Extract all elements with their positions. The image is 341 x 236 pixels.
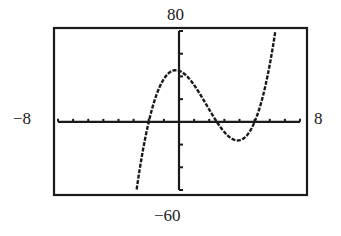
function-curve (137, 32, 276, 189)
curve (137, 32, 276, 189)
graph-window (0, 0, 341, 236)
axes (58, 31, 300, 190)
